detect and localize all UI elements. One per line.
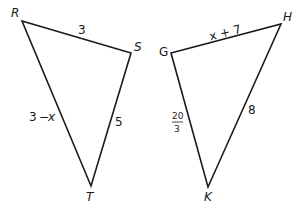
- vertex-label-r: R: [11, 6, 19, 20]
- triangle-ghk: [171, 24, 281, 187]
- side-label-hk: 8: [248, 103, 256, 117]
- vertex-label-h: H: [283, 10, 292, 24]
- side-label-st: 5: [115, 115, 123, 129]
- side-label-rt-constant: 3: [29, 110, 37, 124]
- side-label-gk-fraction: 20 3: [172, 111, 184, 134]
- vertex-label-g: G: [159, 45, 168, 59]
- vertex-label-t: T: [86, 190, 95, 204]
- similar-triangles-diagram: R S T 3 5 3 − x G H K x + 7 8 20 3: [0, 0, 304, 211]
- triangle-rst: [22, 21, 131, 186]
- side-label-rt-variable: x: [47, 110, 56, 124]
- side-label-rt: 3 − x: [29, 110, 56, 124]
- side-label-gh: x + 7: [208, 22, 243, 43]
- fraction-denominator: 3: [174, 124, 180, 134]
- vertex-label-s: S: [134, 40, 142, 54]
- fraction-numerator: 20: [172, 111, 184, 121]
- vertex-label-k: K: [204, 190, 213, 204]
- side-label-rs: 3: [78, 23, 86, 37]
